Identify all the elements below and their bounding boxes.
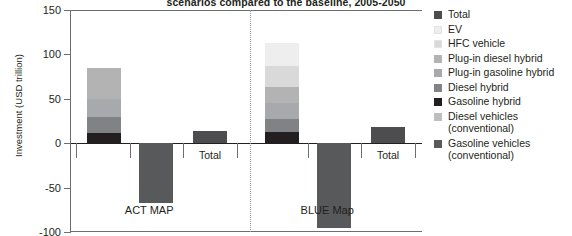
legend-swatch-icon xyxy=(434,26,442,34)
legend-label: Gasoline vehicles(conventional) xyxy=(448,137,530,162)
x-tick xyxy=(237,143,238,158)
x-tick xyxy=(130,143,131,158)
y-tick-label: -100 xyxy=(39,226,61,236)
y-tick-label: 0 xyxy=(55,137,61,149)
x-tick xyxy=(76,143,77,158)
legend-swatch-icon xyxy=(434,140,442,148)
legend-swatch-icon xyxy=(434,11,442,19)
legend-item[interactable]: Gasoline vehicles(conventional) xyxy=(434,137,572,162)
bar-segment[interactable] xyxy=(87,133,121,144)
zero-baseline xyxy=(70,143,422,144)
bar-segment[interactable] xyxy=(265,87,299,103)
legend-label: Plug-in gasoline hybrid xyxy=(448,66,554,79)
y-tick xyxy=(64,232,71,233)
x-tick xyxy=(183,143,184,158)
legend-swatch-icon xyxy=(434,69,442,77)
plot-area: 150100500-50-100 TotalACT MAPTotalBLUE M… xyxy=(70,10,422,232)
legend-label: HFC vehicle xyxy=(448,37,505,50)
bar-segment[interactable] xyxy=(265,43,299,66)
legend-swatch-icon xyxy=(434,40,442,48)
negative-bar[interactable] xyxy=(139,143,173,202)
chart-root: scenarios compared to the baseline, 2005… xyxy=(0,0,572,236)
group-divider xyxy=(250,10,251,232)
y-tick xyxy=(64,143,71,144)
legend-label: Total xyxy=(448,8,470,21)
legend-label: Gasoline hybrid xyxy=(448,95,521,108)
legend-item[interactable]: Plug-in gasoline hybrid xyxy=(434,66,572,79)
bar-segment[interactable] xyxy=(265,119,299,131)
bar-total-label: Total xyxy=(199,149,221,161)
total-bar[interactable] xyxy=(193,131,227,143)
legend-label: EV xyxy=(448,23,462,36)
legend-swatch-icon xyxy=(434,98,442,106)
legend-label: Diesel hybrid xyxy=(448,81,509,94)
y-tick xyxy=(64,10,71,11)
legend-swatch-icon xyxy=(434,84,442,92)
legend-label: Plug-in diesel hybrid xyxy=(448,52,543,65)
legend-swatch-icon xyxy=(434,113,442,121)
bar-segment[interactable] xyxy=(87,117,121,132)
legend: TotalEVHFC vehiclePlug-in diesel hybridP… xyxy=(434,8,572,164)
y-axis-line xyxy=(70,10,71,232)
legend-item[interactable]: EV xyxy=(434,23,572,36)
legend-item[interactable]: Gasoline hybrid xyxy=(434,95,572,108)
y-tick-label: 150 xyxy=(43,4,61,16)
bar-segment[interactable] xyxy=(87,99,121,118)
bar-segment[interactable] xyxy=(265,103,299,119)
x-tick xyxy=(415,143,416,158)
group-label: BLUE Map xyxy=(301,204,354,216)
plot-bottom-border xyxy=(70,231,422,232)
bar-segment[interactable] xyxy=(265,66,299,87)
legend-swatch-icon xyxy=(434,55,442,63)
bar-segment[interactable] xyxy=(87,68,121,99)
legend-item[interactable]: Diesel vehicles(conventional) xyxy=(434,110,572,135)
legend-label: Diesel vehicles(conventional) xyxy=(448,110,518,135)
y-tick-label: 50 xyxy=(49,93,61,105)
y-tick-label: -50 xyxy=(45,182,61,194)
y-axis-title: Investment (USD trillion) xyxy=(13,0,24,216)
y-tick xyxy=(64,188,71,189)
plot-top-border xyxy=(70,10,422,11)
x-tick xyxy=(308,143,309,158)
y-tick xyxy=(64,99,71,100)
total-bar[interactable] xyxy=(371,127,405,143)
legend-item[interactable]: Plug-in diesel hybrid xyxy=(434,52,572,65)
bar-total-label: Total xyxy=(377,149,399,161)
chart-title: scenarios compared to the baseline, 2005… xyxy=(0,0,572,8)
stacked-bar[interactable] xyxy=(265,43,299,143)
legend-item[interactable]: HFC vehicle xyxy=(434,37,572,50)
stacked-bar[interactable] xyxy=(87,68,121,143)
y-tick xyxy=(64,54,71,55)
group-label: ACT MAP xyxy=(125,204,174,216)
x-tick xyxy=(361,143,362,158)
bar-segment[interactable] xyxy=(265,132,299,144)
legend-item[interactable]: Total xyxy=(434,8,572,21)
y-tick-label: 100 xyxy=(43,48,61,60)
legend-item[interactable]: Diesel hybrid xyxy=(434,81,572,94)
